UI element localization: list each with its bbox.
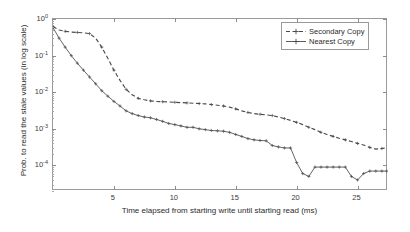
y-minor-tick-mark: [52, 75, 54, 76]
data-point: [240, 135, 243, 138]
data-point: [332, 165, 335, 168]
data-point: [301, 172, 304, 175]
data-point: [198, 102, 201, 105]
y-tick-mark: [383, 129, 387, 130]
x-tick-mark: [175, 18, 176, 22]
y-minor-tick-mark: [52, 23, 54, 24]
legend-item-nearest-copy: Nearest Copy: [285, 36, 364, 46]
data-point: [210, 129, 213, 132]
data-point: [258, 139, 261, 142]
y-minor-tick-mark: [52, 57, 54, 58]
y-minor-tick-mark: [52, 107, 54, 108]
data-point: [344, 138, 347, 141]
y-minor-tick-mark: [52, 176, 54, 177]
data-point: [161, 100, 164, 103]
y-minor-tick-mark: [52, 96, 54, 97]
x-tick-mark: [175, 186, 176, 190]
y-minor-tick-mark: [52, 94, 54, 95]
y-minor-tick-mark: [52, 169, 54, 170]
legend-label: Secondary Copy: [307, 27, 364, 36]
y-minor-tick-mark: [52, 27, 54, 28]
data-point: [137, 114, 140, 117]
y-minor-tick-mark: [52, 148, 54, 149]
data-point: [332, 135, 335, 138]
y-minor-tick-mark: [52, 140, 54, 141]
legend-swatch-solid: [285, 37, 307, 46]
y-tick-mark: [383, 56, 387, 57]
y-minor-tick-mark: [52, 137, 54, 138]
legend-item-secondary-copy: Secondary Copy: [285, 26, 364, 36]
y-minor-tick-mark: [52, 98, 54, 99]
data-point: [319, 165, 322, 168]
data-point: [143, 115, 146, 118]
data-point: [198, 127, 201, 130]
data-point: [210, 103, 213, 106]
data-point: [380, 147, 383, 150]
data-point: [246, 137, 249, 140]
x-tick-mark: [236, 186, 237, 190]
data-point: [289, 146, 292, 149]
y-minor-tick-mark: [52, 25, 54, 26]
y-minor-tick-mark: [52, 111, 54, 112]
data-point: [185, 126, 188, 129]
y-tick-mark: [383, 19, 387, 20]
y-minor-tick-mark: [52, 132, 54, 133]
data-point: [167, 122, 170, 125]
y-minor-tick-mark: [52, 103, 54, 104]
data-point: [216, 129, 219, 132]
y-minor-tick-mark: [52, 191, 54, 192]
x-tick-mark: [114, 186, 115, 190]
y-minor-tick-mark: [52, 67, 54, 68]
y-minor-tick-mark: [52, 180, 54, 181]
y-minor-tick-mark: [52, 134, 54, 135]
data-point: [173, 123, 176, 126]
x-tick-mark: [114, 18, 115, 22]
y-tick-mark: [383, 165, 387, 166]
data-point: [185, 101, 188, 104]
data-point: [149, 116, 152, 119]
x-axis-title: Time elapsed from starting write until s…: [52, 206, 387, 215]
data-point: [295, 161, 298, 164]
x-tick-mark: [358, 186, 359, 190]
data-point: [283, 117, 286, 120]
x-tick-label: 10: [170, 193, 178, 202]
data-point: [385, 169, 388, 172]
data-point: [155, 118, 158, 121]
y-axis-title: Prob. to read the stale values (in log s…: [19, 6, 28, 196]
data-point: [149, 99, 152, 102]
data-point: [277, 145, 280, 148]
data-point: [246, 111, 249, 114]
data-point: [325, 165, 328, 168]
data-point: [191, 126, 194, 129]
data-point: [204, 128, 207, 131]
data-point: [356, 142, 359, 145]
data-point: [137, 97, 140, 100]
data-point: [368, 169, 371, 172]
y-minor-tick-mark: [52, 45, 54, 46]
data-point: [258, 113, 261, 116]
y-minor-tick-mark: [52, 174, 54, 175]
data-point: [222, 130, 225, 133]
chart-figure: 510152025 10010-110-210-310-4 Time elaps…: [0, 0, 410, 232]
data-point: [161, 120, 164, 123]
y-tick-mark: [383, 92, 387, 93]
y-minor-tick-mark: [52, 118, 54, 119]
y-minor-tick-mark: [52, 64, 54, 65]
data-point: [283, 146, 286, 149]
data-point: [271, 114, 274, 117]
chart-legend: Secondary Copy Nearest Copy: [281, 22, 369, 50]
data-point: [64, 30, 67, 33]
y-minor-tick-mark: [52, 21, 54, 22]
data-point: [374, 169, 377, 172]
y-minor-tick-mark: [52, 100, 54, 101]
data-point: [228, 131, 231, 134]
x-tick-label: 15: [231, 193, 239, 202]
y-minor-tick-mark: [52, 38, 54, 39]
y-minor-tick-mark: [52, 130, 54, 131]
y-minor-tick-mark: [52, 34, 54, 35]
data-point: [252, 138, 255, 141]
data-point: [88, 32, 91, 35]
data-point: [131, 112, 134, 115]
data-point: [173, 101, 176, 104]
legend-label: Nearest Copy: [307, 37, 355, 46]
